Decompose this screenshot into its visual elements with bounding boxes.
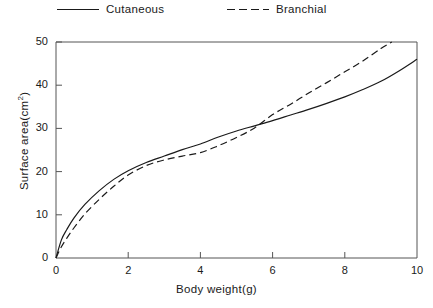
plot-area xyxy=(0,0,433,308)
y-axis-title-tail: ) xyxy=(18,92,30,96)
x-tick-label: 4 xyxy=(185,264,215,276)
axes-frame xyxy=(56,42,417,258)
x-tick-label: 8 xyxy=(330,264,360,276)
series-line-cutaneous xyxy=(56,59,417,258)
x-tick-label: 2 xyxy=(113,264,143,276)
data-series-group xyxy=(56,42,417,258)
x-axis-title: Body weight(g) xyxy=(0,283,433,295)
chart-figure: Cutaneous Branchial 01020304050 0246810 … xyxy=(0,0,433,308)
x-tick-label: 6 xyxy=(258,264,288,276)
y-tick-label: 0 xyxy=(18,251,48,263)
x-tick-label: 10 xyxy=(402,264,432,276)
y-tick-label: 50 xyxy=(18,35,48,47)
x-tick-label: 0 xyxy=(41,264,71,276)
series-line-branchial xyxy=(56,42,392,258)
axis-ticks xyxy=(56,42,345,258)
y-axis-title-superscript: 2 xyxy=(16,96,25,101)
y-axis-title: Surface area(cm2) xyxy=(16,51,30,231)
y-axis-title-main: Surface area(cm xyxy=(18,101,30,191)
